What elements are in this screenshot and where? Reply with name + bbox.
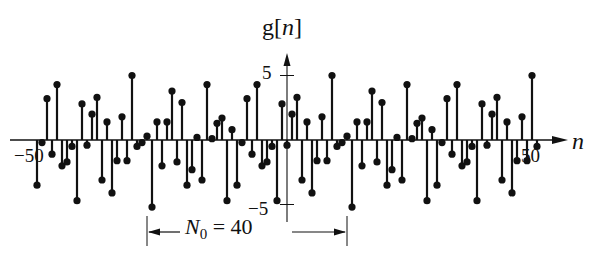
stem-marker <box>338 139 345 146</box>
stem-marker <box>483 142 490 149</box>
stem-marker <box>48 151 55 158</box>
stem-marker <box>298 176 305 183</box>
stem-marker <box>378 99 385 106</box>
stem-marker <box>403 81 410 88</box>
stem-marker <box>503 118 510 125</box>
stem-marker <box>238 139 245 146</box>
stem-marker <box>513 157 520 164</box>
stem-marker <box>83 142 90 149</box>
stem-marker <box>233 182 240 189</box>
stem-marker <box>253 81 260 88</box>
stem-marker <box>343 133 350 140</box>
stem-marker <box>318 113 325 120</box>
stem-marker <box>313 157 320 164</box>
stem-marker <box>203 81 210 88</box>
stem-marker <box>348 203 355 210</box>
stem-marker <box>113 157 120 164</box>
stem-marker <box>498 176 505 183</box>
stem-marker <box>93 94 100 101</box>
stem-marker <box>423 197 430 204</box>
stem-marker <box>418 114 425 121</box>
stem-marker <box>153 118 160 125</box>
stem-marker <box>443 95 450 102</box>
stem-marker <box>408 135 415 142</box>
stem-marker <box>278 100 285 107</box>
stem-marker <box>328 72 335 79</box>
arrow-right-icon <box>334 229 346 236</box>
stem-marker <box>393 134 400 141</box>
stem-marker <box>448 151 455 158</box>
stem-marker <box>33 182 40 189</box>
stem-marker <box>353 118 360 125</box>
arrow-left-icon <box>148 229 160 236</box>
stem-marker <box>108 189 115 196</box>
stem-marker <box>518 113 525 120</box>
stem-marker <box>123 157 130 164</box>
stem-marker <box>53 81 60 88</box>
stem-marker <box>413 120 420 127</box>
stem-marker <box>473 197 480 204</box>
stem-marker <box>398 176 405 183</box>
stem-marker <box>218 114 225 121</box>
stem-marker <box>428 126 435 133</box>
stem-marker <box>223 197 230 204</box>
period-annotation: N0 = 40 <box>185 214 253 243</box>
stem-marker <box>433 182 440 189</box>
stem-marker <box>243 95 250 102</box>
stem-marker <box>148 203 155 210</box>
stem-marker <box>383 182 390 189</box>
stem-marker <box>508 189 515 196</box>
stem-marker <box>163 118 170 125</box>
stem-marker <box>288 111 295 118</box>
stem-marker <box>88 111 95 118</box>
stem-marker <box>478 100 485 107</box>
stem-marker <box>268 143 275 150</box>
stem-marker <box>438 139 445 146</box>
stem-marker <box>463 158 470 165</box>
x-tick-50: 50 <box>521 145 540 167</box>
stem-plot <box>0 0 608 255</box>
stem-marker <box>303 118 310 125</box>
stem-marker <box>103 118 110 125</box>
y-axis-arrow-icon <box>284 53 291 66</box>
stem-marker <box>493 94 500 101</box>
stem-marker <box>273 197 280 204</box>
stem-marker <box>73 197 80 204</box>
stem-marker <box>528 72 535 79</box>
stem-marker <box>293 94 300 101</box>
x-tick-neg50: −50 <box>14 145 44 167</box>
stem-marker <box>143 133 150 140</box>
stem-marker <box>368 87 375 94</box>
stem-marker <box>183 182 190 189</box>
stem-marker <box>178 99 185 106</box>
stem-marker <box>208 135 215 142</box>
stem-marker <box>323 157 330 164</box>
x-axis-label: n <box>572 128 584 155</box>
stem-marker <box>468 143 475 150</box>
stem-marker <box>68 143 75 150</box>
stem-marker <box>213 120 220 127</box>
stem-marker <box>248 151 255 158</box>
stem-marker <box>373 158 380 165</box>
stem-marker <box>158 162 165 169</box>
stem-marker <box>263 158 270 165</box>
stem-marker <box>63 158 70 165</box>
stem-marker <box>453 81 460 88</box>
stem-marker <box>173 158 180 165</box>
stem-marker <box>283 142 290 149</box>
x-axis-arrow-icon <box>552 136 568 144</box>
stem-marker <box>198 176 205 183</box>
stem-marker <box>118 113 125 120</box>
stem-marker <box>228 126 235 133</box>
stem-marker <box>358 162 365 169</box>
stem-marker <box>168 87 175 94</box>
stem-marker <box>363 118 370 125</box>
stem-marker <box>128 72 135 79</box>
stem-marker <box>43 95 50 102</box>
stem-marker <box>98 176 105 183</box>
stem-marker <box>78 100 85 107</box>
stem-marker <box>308 189 315 196</box>
stem-marker <box>388 166 395 173</box>
y-tick-5: 5 <box>262 62 272 84</box>
stem-marker <box>193 134 200 141</box>
